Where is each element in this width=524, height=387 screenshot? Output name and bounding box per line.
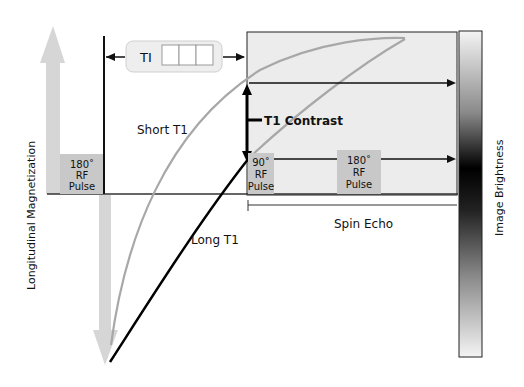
spin-echo-interval: Spin Echo — [248, 200, 457, 231]
svg-text:90˚: 90˚ — [252, 157, 270, 168]
svg-text:180˚: 180˚ — [347, 155, 371, 166]
svg-text:180˚: 180˚ — [70, 159, 94, 170]
t1-contrast-label: T1 Contrast — [264, 114, 343, 128]
magnetization-down-arrow — [93, 195, 118, 365]
right-axis-label: Image Brightness — [493, 139, 506, 236]
t1-contrast-diagram: Longitudinal Magnetization 180˚ RF Pulse… — [0, 0, 524, 387]
spin-echo-label: Spin Echo — [334, 217, 393, 231]
svg-text:RF: RF — [255, 169, 268, 180]
short-t1-label: Short T1 — [137, 123, 188, 137]
pulse-180-echo: 180˚ RF Pulse — [337, 150, 381, 194]
svg-text:Pulse: Pulse — [248, 181, 274, 192]
svg-text:RF: RF — [353, 167, 366, 178]
ti-interval: TI — [106, 41, 245, 72]
svg-text:Pulse: Pulse — [69, 181, 95, 192]
pulse-180-initial: 180˚ RF Pulse — [60, 154, 104, 194]
long-t1-label: Long T1 — [191, 233, 239, 247]
image-brightness-scale — [459, 31, 482, 357]
svg-text:Pulse: Pulse — [346, 179, 372, 190]
long-t1-curve-black — [110, 158, 249, 362]
y-axis-label: Longitudinal Magnetization — [25, 141, 38, 290]
pulse-90: 90˚ RF Pulse — [248, 153, 274, 194]
svg-text:TI: TI — [139, 50, 152, 65]
svg-text:RF: RF — [76, 170, 89, 181]
